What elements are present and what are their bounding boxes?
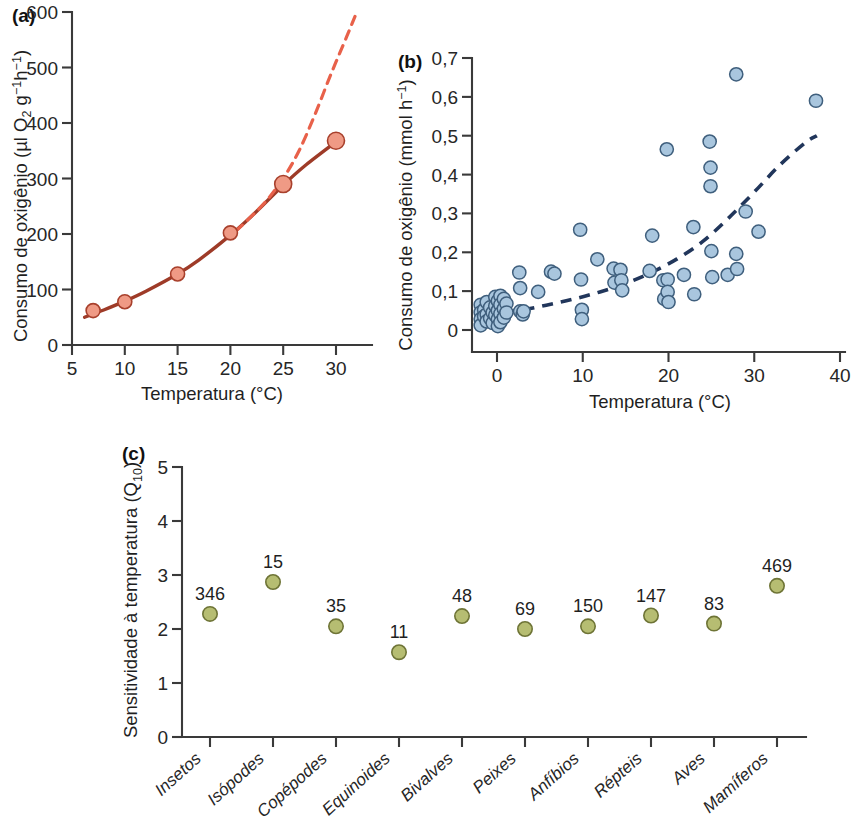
panel-a-xtick-25: 25 (273, 358, 294, 379)
panel-c-category-label: Isópodes (204, 749, 268, 810)
panel-a-xtick-30: 30 (325, 358, 346, 379)
panel-b-xlabel: Temperatura (°C) (589, 391, 731, 412)
panel-c-category-label: Anfíbios (524, 749, 583, 805)
panel-a-curves (85, 16, 355, 317)
panel-c-point-label: 35 (326, 596, 346, 616)
panel-c-point (329, 619, 343, 633)
panel-b-ytick-04: 0,4 (432, 165, 459, 186)
panel-b-yticklabels: 0,7 0,6 0,5 0,4 0,3 0,2 0,1 0 (432, 48, 459, 341)
panel-b-point (706, 271, 719, 284)
panel-b-point (704, 161, 717, 174)
panel-a-ytick-100: 100 (26, 280, 58, 301)
panel-c-point-label: 48 (452, 586, 472, 606)
panel-a-yticklabels: 600 500 400 300 200 100 0 (26, 2, 58, 356)
panel-c-point (203, 607, 217, 621)
panel-b-point (730, 247, 743, 260)
panel-b-ytick-03: 0,3 (432, 203, 458, 224)
panel-a-ytick-500: 500 (26, 58, 58, 79)
panel-a-point (171, 267, 185, 281)
panel-b-ylabel-suffix: ) (395, 79, 416, 85)
panel-a-ylabel-mid: g (10, 95, 31, 110)
panel-c-point (518, 622, 532, 636)
panel-b-ytick-07: 0,7 (432, 48, 458, 69)
panel-a-ylabel-sup2: −1 (10, 56, 24, 70)
panel-a-ytick-300: 300 (26, 169, 58, 190)
panel-c-point-label: 469 (762, 556, 792, 576)
panel-c-ytick-2: 2 (157, 619, 168, 640)
panel-c-category-label: Répteis (590, 749, 646, 802)
panel-b-point (688, 288, 701, 301)
panel-b-xticklabels: 0 10 20 30 40 (492, 365, 851, 386)
panel-b-datapoints (474, 68, 822, 333)
panel-b-ytick-0: 0 (447, 320, 458, 341)
panel-b-point (705, 245, 718, 258)
panel-c-category-label: Bivalves (397, 749, 457, 806)
panel-c-point (266, 575, 280, 589)
panel-b-ylabel-sup1: −1 (395, 85, 409, 99)
panel-c-point (707, 616, 721, 630)
panel-c-ylabel-suffix: ) (120, 462, 141, 468)
panel-c-point-label: 83 (704, 594, 724, 614)
panel-b-xticks (497, 352, 840, 362)
panel-a-point (275, 176, 292, 193)
panel-b-point (500, 306, 513, 319)
panel-c-point-label: 147 (636, 586, 666, 606)
panel-b-xtick-40: 40 (829, 365, 850, 386)
panel-a-curva-extrapolada-tracejada (236, 16, 355, 231)
panel-c-ylabel-sub1: 10 (131, 468, 145, 482)
panel-c-point (455, 609, 469, 623)
panel-a-xtick-15: 15 (167, 358, 188, 379)
panel-b-ytick-02: 0,2 (432, 242, 458, 263)
svg-text:Sensitividade à temperatura (Q: Sensitividade à temperatura (Q10) (120, 462, 145, 738)
panel-b-point (677, 268, 690, 281)
panel-a-xtick-10: 10 (114, 358, 135, 379)
panel-b-point (513, 266, 526, 279)
panel-b-point (517, 305, 530, 318)
panel-c-point (644, 608, 658, 622)
panel-c: (c) Sensitividade à temperatura (Q10) 5 … (120, 443, 806, 821)
panel-c-point-label: 150 (573, 596, 603, 616)
panel-a-datapoints (86, 132, 344, 317)
panel-a-point (118, 295, 132, 309)
panel-a-point (328, 132, 345, 149)
panel-b-point (643, 264, 656, 277)
svg-text:Consumo de oxigênio (mmol h−1): Consumo de oxigênio (mmol h−1) (395, 79, 416, 350)
panel-b-point (591, 253, 604, 266)
panel-b-point (575, 313, 588, 326)
panel-c-category-label: Peixes (469, 749, 520, 798)
panel-b-point (514, 281, 527, 294)
panel-c-point-labels: 346153511486915014783469 (195, 552, 792, 642)
panel-b-xtick-20: 20 (658, 365, 679, 386)
panel-a-ylabel-sup1: −1 (10, 81, 24, 95)
panel-a-point (223, 226, 237, 240)
panel-c-yticks (172, 467, 182, 737)
panel-a-ytick-0: 0 (47, 335, 58, 356)
panel-b-ytick-06: 0,6 (432, 87, 458, 108)
panel-b-point (532, 285, 545, 298)
figure-svg: (a) Consumo de oxigênio (µl O2 g−1h−1) (0, 0, 866, 826)
panel-a-xtick-5: 5 (67, 358, 78, 379)
panel-b-point (687, 220, 700, 233)
panel-c-yticklabels: 5 4 3 2 1 0 (157, 457, 168, 748)
panel-c-point (770, 579, 784, 593)
panel-c-category-label: Mamíferos (699, 749, 772, 817)
panel-c-ytick-0: 0 (157, 727, 168, 748)
panel-b-yticks (462, 58, 472, 330)
panel-b-ylabel: Consumo de oxigênio (mmol h−1) (395, 79, 416, 350)
panel-c-ylabel: Sensitividade à temperatura (Q10) (120, 462, 145, 738)
panel-a-ytick-600: 600 (26, 2, 58, 23)
panel-a-ytick-400: 400 (26, 113, 58, 134)
panel-c-point (581, 619, 595, 633)
panel-c-point-label: 346 (195, 584, 225, 604)
panel-c-ytick-4: 4 (157, 511, 168, 532)
panel-c-category-label: Aves (667, 749, 709, 789)
panel-a-curva-ajustada-solida (85, 142, 336, 317)
panel-b-xtick-30: 30 (744, 365, 765, 386)
panel-b-point (662, 295, 675, 308)
panel-b-point (574, 273, 587, 286)
panel-c-point-label: 11 (390, 622, 409, 642)
panel-c-category-label: Equinoides (318, 749, 394, 820)
panel-b-point (752, 225, 765, 238)
panel-a-ylabel-suffix: ) (10, 50, 31, 56)
panel-b-point (660, 143, 673, 156)
